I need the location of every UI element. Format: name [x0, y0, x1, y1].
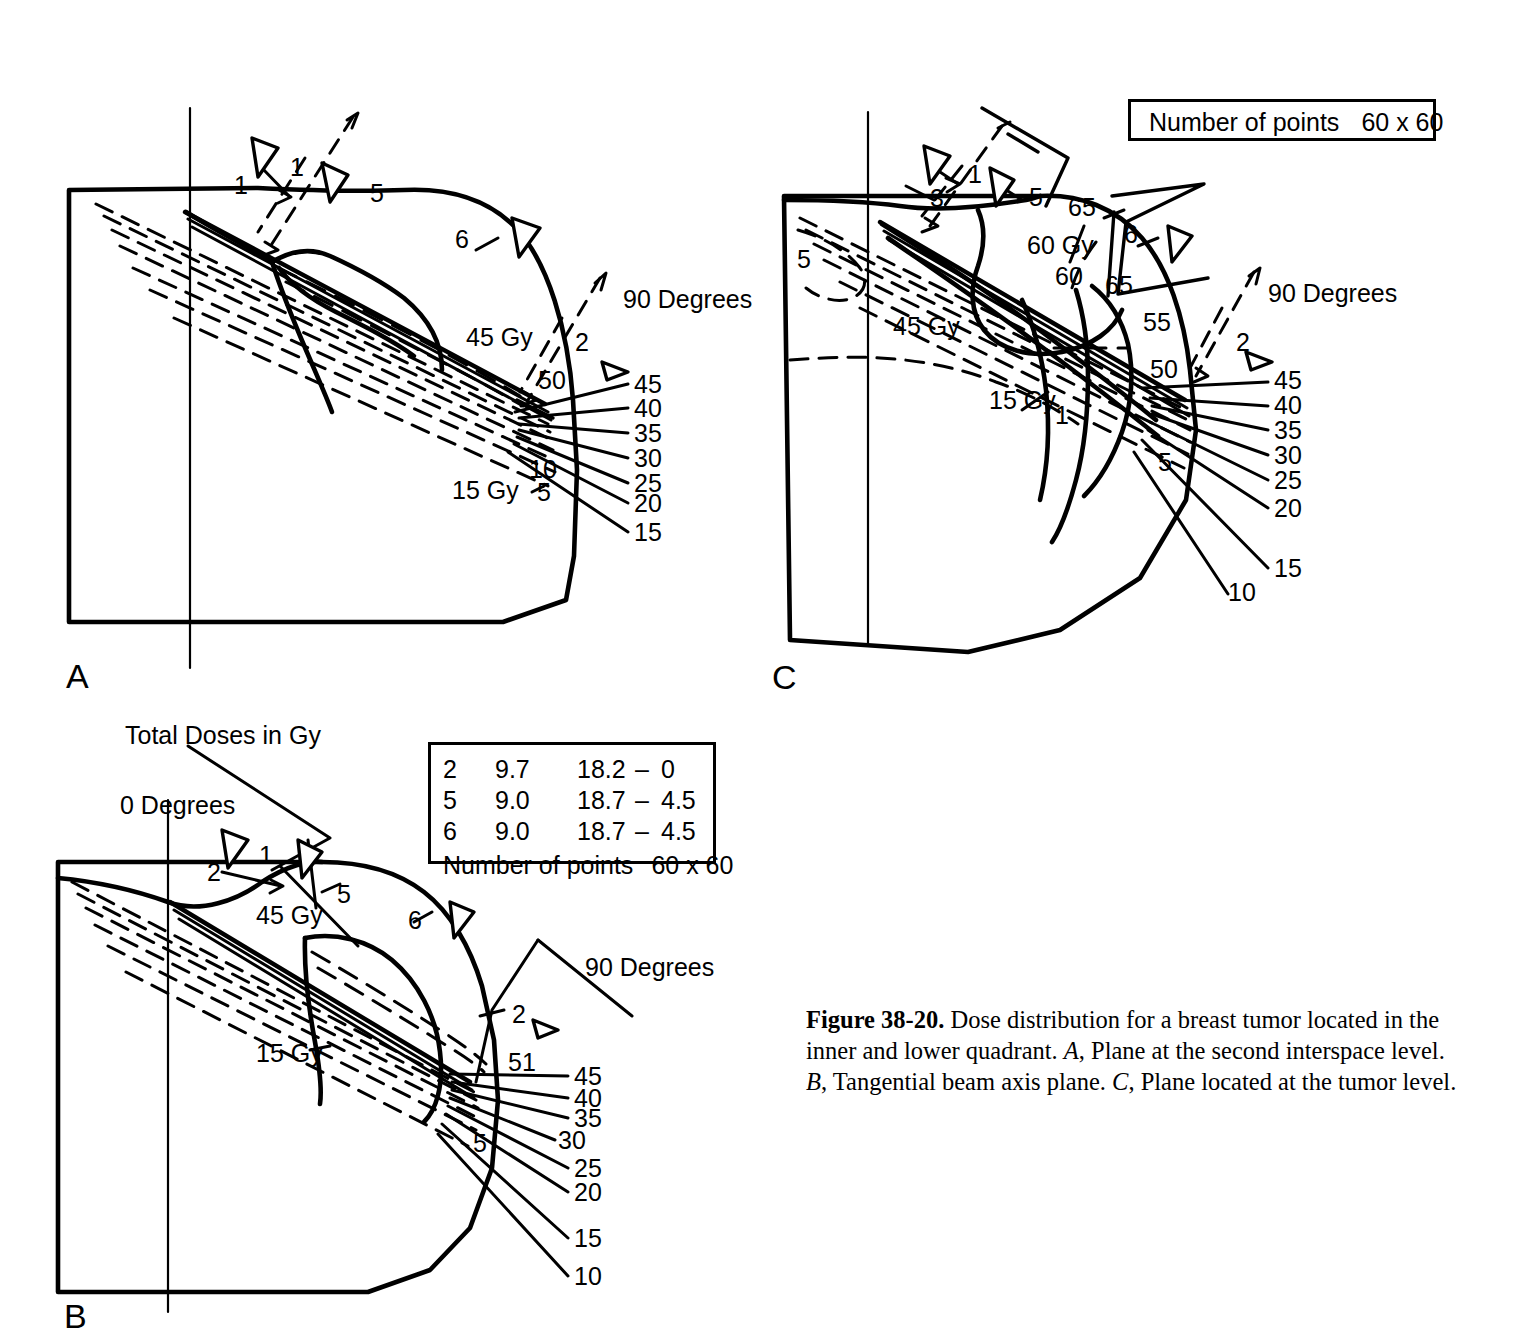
panel-c-label-beam-6: 6	[1124, 222, 1138, 247]
panel-b-label-beam-6: 6	[408, 908, 422, 933]
panel-a-beam-marker-1	[252, 138, 278, 177]
panel-c-label-low-1: 1	[1055, 403, 1069, 428]
panel-a-field-tick-3	[595, 273, 606, 290]
panel-c-leader-label-1: 40	[1274, 393, 1302, 418]
table-cell-col4: 4.5	[661, 816, 696, 847]
panel-a-field-tick-2	[262, 242, 278, 256]
panel-b-leader-label-7: 10	[574, 1264, 602, 1289]
panel-c-label-low-5-left: 5	[797, 247, 811, 272]
panel-b-leader-lines	[438, 1074, 568, 1276]
panel-letter-a: A	[66, 657, 89, 696]
panel-b-leader-label-5: 20	[574, 1180, 602, 1205]
table-cell-beam: 2	[443, 754, 495, 785]
panel-a-leader-label-2: 35	[634, 421, 662, 446]
panel-c-frame-1	[982, 108, 1068, 206]
caption-panel-c-text: , Plane located at the tumor level.	[1128, 1068, 1456, 1095]
panel-a-label-beam-2: 2	[575, 330, 589, 355]
figure-linework	[0, 0, 1513, 1338]
caption-panel-b-letter: B	[806, 1068, 821, 1095]
panel-a-inner-contour-mid	[279, 268, 414, 356]
panel-a-label-beam-1b: 1	[290, 155, 304, 180]
panel-c-tick-5top	[1104, 210, 1124, 218]
table-cell-col3: 18.7	[577, 785, 635, 816]
panel-b-inner-contour	[305, 936, 441, 1122]
panel-c-leader-label-3: 30	[1274, 443, 1302, 468]
panel-b-beam-marker-3	[450, 902, 474, 938]
panel-c-beam-marker-3	[1168, 226, 1192, 262]
panel-b-pointer-1	[222, 872, 281, 886]
panel-c-label-15gy: 15 Gy	[989, 388, 1056, 413]
table-cell-col2: 9.0	[495, 816, 577, 847]
panel-c-label-50: 50	[1150, 357, 1178, 382]
panel-a-label-90-degrees: 90 Degrees	[623, 287, 752, 312]
number-of-points-box-c: Number of points60 x 60	[1128, 99, 1436, 141]
panel-c-label-55: 55	[1143, 310, 1171, 335]
panel-c-leader-label-6: 15	[1274, 556, 1302, 581]
figure-number: Figure 38-20.	[806, 1006, 944, 1033]
panel-a-beam-marker-2	[322, 163, 348, 202]
number-of-points-label-c: Number of points	[1149, 108, 1339, 136]
panel-b-field-line-1	[308, 840, 316, 908]
panel-b-leader-label-3: 30	[558, 1128, 586, 1153]
panel-c-label-60gy: 60 Gy	[1027, 233, 1094, 258]
panel-c-leader-label-5: 20	[1274, 496, 1302, 521]
panel-c-field-tick-4	[1194, 368, 1208, 382]
caption-panel-a-text: , Plane at the second interspace level.	[1079, 1037, 1445, 1064]
panel-a-label-50: 50	[538, 368, 566, 393]
panel-b-label-beam-2-top: 2	[207, 860, 221, 885]
panel-b-title: Total Doses in Gy	[125, 723, 321, 748]
panel-b-label-90-degrees: 90 Degrees	[585, 955, 714, 980]
panel-a-iso-band-1	[185, 212, 545, 404]
panel-a-label-beam-6: 6	[455, 227, 469, 252]
panel-b-label-beam-5-top: 5	[337, 882, 351, 907]
caption-panel-a-letter: A	[1064, 1037, 1079, 1064]
panel-c-chestwall	[784, 196, 1040, 208]
panel-c-leader-label-0: 45	[1274, 368, 1302, 393]
beam-parameters-box: 2 9.7 18.2 – 0 5 9.0 18.7 – 4.5 6 9.0 18…	[428, 742, 716, 864]
panel-c-frame-tick	[1008, 134, 1038, 152]
panel-a-label-45gy: 45 Gy	[466, 325, 533, 350]
caption-panel-b-text: , Tangential beam axis plane.	[821, 1068, 1112, 1095]
table-cell-col2: 9.7	[495, 754, 577, 785]
panel-a-beam-marker-3	[512, 218, 540, 257]
panel-b-label-45gy: 45 Gy	[256, 903, 323, 928]
panel-c-field-edge-2	[1190, 272, 1254, 376]
panel-c-tick-6	[1138, 238, 1158, 246]
panel-a-label-beam-1a: 1	[234, 173, 248, 198]
table-cell-dash: –	[635, 754, 661, 785]
panel-a-iso-band-2	[188, 219, 548, 412]
panel-c-label-90-degrees: 90 Degrees	[1268, 281, 1397, 306]
panel-a-field-bracket	[517, 400, 553, 418]
panel-c-label-65-lower: 65	[1105, 273, 1133, 298]
panel-c-leader-label-4: 25	[1274, 468, 1302, 493]
panel-letter-b: B	[64, 1297, 87, 1336]
panel-c-field-tick-3	[1249, 268, 1260, 284]
panel-c-body-outline	[784, 196, 1196, 652]
panel-b-label-low-5: 5	[473, 1131, 487, 1156]
panel-a-pointer-1	[262, 168, 289, 196]
table-cell-beam: 6	[443, 816, 495, 847]
figure-container: A 1 1 5 6 2 45 Gy 15 Gy 50 10 5 90 Degre…	[0, 0, 1513, 1338]
panel-b-leader-label-6: 15	[574, 1226, 602, 1251]
panel-a-inner-contour-top	[186, 212, 442, 370]
panel-b-beam-marker-1	[222, 830, 248, 868]
panel-c-label-beam-3: 3	[930, 186, 944, 211]
panel-b-label-15gy: 15 Gy	[256, 1041, 323, 1066]
panel-a-beam-marker-4	[602, 362, 628, 380]
table-cell-col3: 18.7	[577, 816, 635, 847]
panel-a-field-edge-1	[258, 117, 353, 250]
panel-c-label-beam-1: 1	[968, 162, 982, 187]
panel-c-field-tick-2	[922, 218, 938, 232]
caption-panel-c-letter: C	[1112, 1068, 1128, 1095]
panel-c-pointer-1	[928, 164, 958, 184]
panel-a-leader-label-1: 40	[634, 396, 662, 421]
panel-b-label-51: 51	[508, 1050, 536, 1075]
panel-a-leader-label-3: 30	[634, 446, 662, 471]
number-of-points-label: Number of points	[443, 851, 633, 879]
table-row: 2 9.7 18.2 – 0	[443, 754, 696, 785]
panel-c-label-60: 60	[1055, 264, 1083, 289]
panel-a-body-outline	[69, 188, 577, 622]
number-of-points-row: Number of points60 x 60	[443, 851, 713, 880]
panel-c-label-45gy: 45 Gy	[893, 314, 960, 339]
table-cell-col3: 18.2	[577, 754, 635, 785]
